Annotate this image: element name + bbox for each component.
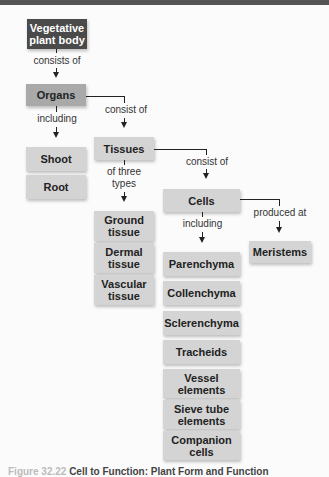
node-ground-tissue: Ground tissue (94, 211, 154, 241)
figure-title: Cell to Function: Plant Form and Functio… (69, 466, 268, 477)
arrow-icon (199, 237, 205, 243)
node-parenchyma: Parenchyma (163, 252, 240, 276)
node-label: Organs (37, 89, 76, 101)
edge-label-consist-of: consist of (178, 156, 236, 168)
node-label: Root (43, 181, 68, 193)
node-label: Companion cells (163, 434, 240, 458)
figure-caption: Figure 32.22 Cell to Function: Plant For… (8, 466, 269, 477)
connector (240, 199, 280, 200)
connector (56, 106, 57, 112)
arrow-icon (276, 227, 282, 233)
node-label: Tissues (104, 143, 145, 155)
arrow-icon (121, 122, 127, 128)
node-vessel-elements: Vessel elements (163, 369, 240, 398)
connector (206, 149, 207, 155)
node-label: Dermal tissue (94, 246, 154, 270)
edge-label-of-three-types: of three types (103, 166, 145, 190)
node-cells: Cells (163, 189, 240, 212)
node-organs: Organs (26, 84, 86, 106)
node-label: Vegetative plant body (27, 22, 87, 46)
edge-label-consists-of: consists of (27, 55, 87, 67)
edge-label-consist-of: consist of (98, 104, 154, 116)
connector (124, 96, 125, 103)
connector (202, 212, 203, 217)
node-shoot: Shoot (26, 147, 86, 171)
node-tissues: Tissues (94, 137, 154, 160)
figure-number: Figure 32.22 (8, 466, 66, 477)
arrow-icon (53, 132, 59, 138)
node-label: Shoot (40, 153, 71, 165)
node-label: Sclerenchyma (164, 317, 239, 329)
node-sclerenchyma: Sclerenchyma (163, 311, 240, 335)
edge-label-including: including (27, 113, 87, 125)
arrow-icon (121, 196, 127, 202)
node-label: Meristems (253, 246, 307, 258)
top-bar (0, 0, 329, 5)
node-sieve-tube-elements: Sieve tube elements (163, 400, 240, 429)
connector (154, 149, 207, 150)
node-label: Collenchyma (167, 287, 235, 299)
arrow-icon (53, 72, 59, 78)
node-label: Vessel elements (163, 372, 240, 396)
node-label: Vascular tissue (94, 278, 154, 302)
node-label: Sieve tube elements (163, 403, 240, 427)
node-root: Root (26, 175, 86, 199)
node-vascular-tissue: Vascular tissue (94, 275, 154, 305)
node-label: Ground tissue (94, 214, 154, 238)
edge-label-produced-at: produced at (248, 207, 312, 219)
node-label: Parenchyma (169, 258, 234, 270)
node-label: Tracheids (176, 346, 227, 358)
node-vegetative-plant-body: Vegetative plant body (27, 19, 87, 49)
connector (56, 49, 57, 53)
node-dermal-tissue: Dermal tissue (94, 243, 154, 273)
edge-label-including: including (175, 218, 230, 230)
node-label: Cells (188, 195, 214, 207)
connector (279, 199, 280, 206)
arrow-icon (203, 173, 209, 179)
node-companion-cells: Companion cells (163, 431, 240, 460)
connector (124, 160, 125, 165)
node-meristems: Meristems (249, 241, 311, 263)
connector (86, 96, 124, 97)
node-collenchyma: Collenchyma (163, 281, 240, 305)
node-tracheids: Tracheids (163, 340, 240, 364)
